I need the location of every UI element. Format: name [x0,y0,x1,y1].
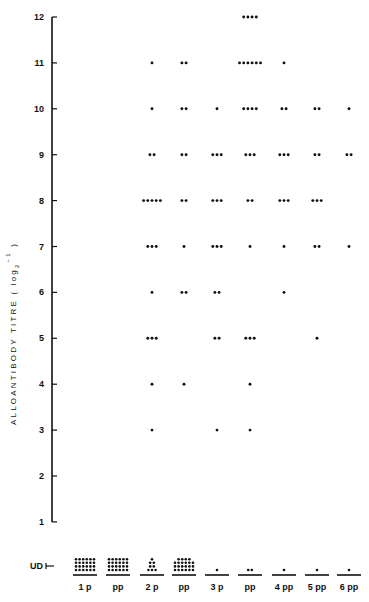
ud-point [111,562,114,565]
data-point [213,291,216,294]
x-category-label: 3 p [210,582,224,592]
ud-point [188,565,191,568]
data-point [255,61,258,64]
x-axis-categories: 1 ppp2 ppp3 ppp4 pp5 pp6 pp [78,582,358,592]
ud-point [119,565,122,568]
data-point [185,153,188,156]
ud-point [82,569,85,572]
data-point [283,61,286,64]
data-point [255,107,258,110]
data-point [155,199,158,202]
data-point [253,337,256,340]
ud-point [185,562,188,565]
ud-point [111,569,114,572]
ud-point [122,565,125,568]
data-point [251,16,254,19]
data-point [185,61,188,64]
data-point [253,153,256,156]
y-tick-label: 5 [39,333,44,343]
data-point [180,153,183,156]
data-point [216,107,219,110]
data-points [142,16,352,432]
ud-point [75,562,78,565]
y-tick-label: 7 [39,242,44,252]
data-point [249,153,252,156]
ud-label: UD [30,561,43,571]
data-point [216,429,219,432]
ud-point [126,562,129,565]
data-point [216,199,219,202]
data-point [148,153,151,156]
data-point [155,245,158,248]
data-point [185,291,188,294]
ud-point [78,562,81,565]
ud-point [108,569,111,572]
data-point [211,199,214,202]
ud-point [151,558,154,561]
undetectable-row: UD [30,558,361,575]
ud-point [82,558,85,561]
ud-point [149,562,152,565]
ud-point [86,558,89,561]
ud-point [188,569,191,572]
y-tick-label: 1 [39,517,44,527]
data-point [278,153,281,156]
ud-point [93,569,96,572]
data-point [316,199,319,202]
data-point [159,199,162,202]
data-point [220,153,223,156]
data-point [348,245,351,248]
data-point [318,107,321,110]
x-category-label: 4 pp [275,582,294,592]
ud-point [147,569,150,572]
ud-point [93,565,96,568]
ud-point [177,569,180,572]
ud-point [181,558,184,561]
ud-point [181,562,184,565]
y-tick-label: 6 [39,287,44,297]
data-point [249,429,252,432]
ud-point [93,558,96,561]
data-point [151,107,154,110]
ud-point [108,558,111,561]
data-point [151,429,154,432]
ud-point [78,569,81,572]
data-point [316,337,319,340]
ud-point [192,569,195,572]
data-point [151,383,154,386]
data-point [220,245,223,248]
data-point [216,153,219,156]
ud-point [108,565,111,568]
ud-point [149,565,152,568]
ud-point [115,569,118,572]
ud-point [153,565,156,568]
data-point [285,107,288,110]
ud-point [185,565,188,568]
data-point [146,337,149,340]
ud-point [78,558,81,561]
ud-point [78,565,81,568]
y-tick-label: 8 [39,196,44,206]
data-point [242,107,245,110]
data-point [318,153,321,156]
data-point [249,245,252,248]
data-point [318,245,321,248]
data-point [242,16,245,19]
data-point [142,199,145,202]
ud-point [348,569,351,572]
data-point [151,61,154,64]
y-axis: 123456789101112 [34,12,57,527]
data-point [151,337,154,340]
ud-point [86,569,89,572]
data-point [238,61,241,64]
data-point [185,199,188,202]
ud-point [115,565,118,568]
y-tick-label: 12 [34,12,44,22]
ud-point [89,558,92,561]
x-category-label: pp [179,582,190,592]
data-point [246,199,249,202]
ud-point [153,562,156,565]
data-point [350,153,353,156]
ud-point [82,565,85,568]
ud-point [86,565,89,568]
